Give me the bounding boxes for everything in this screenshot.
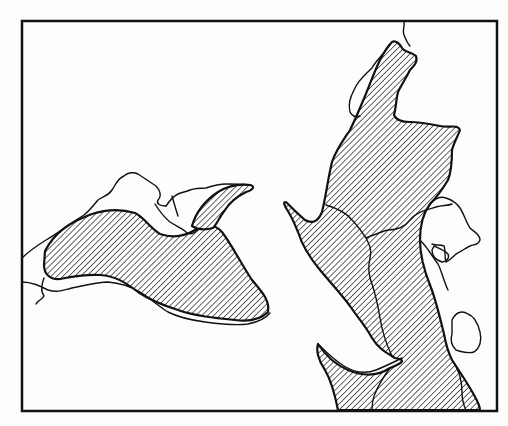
hatched-region-eastern-trough (284, 41, 480, 410)
boundary-line-inner-spur (172, 196, 178, 216)
hatched-region-north-gulf-arm (192, 185, 253, 230)
map-canvas (0, 0, 508, 426)
boundary-line-north-river (403, 21, 410, 46)
boundary-line-east-lake-lower (451, 312, 481, 353)
hatched-map (0, 0, 508, 426)
boundary-line-inlet-loop (155, 204, 200, 234)
hatched-regions-layer (44, 41, 480, 410)
boundary-line-west-river-stub (36, 278, 44, 304)
